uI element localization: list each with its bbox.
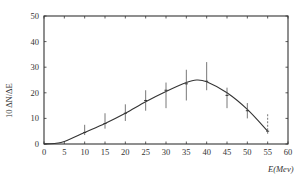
data-points <box>83 62 269 135</box>
x-tick-label: 25 <box>141 147 150 157</box>
y-tick-label: 50 <box>31 11 40 21</box>
x-tick-label: 40 <box>202 147 211 157</box>
x-tick-label: 20 <box>121 147 130 157</box>
plot-border <box>44 16 288 144</box>
chart: 051015202530354045505560 01020304050 E(M… <box>0 0 308 176</box>
x-tick-label: 60 <box>284 147 293 157</box>
y-axis-title: 10 ΔN/ΔE <box>4 83 14 118</box>
fitted-curve <box>44 80 268 144</box>
y-tick-label: 20 <box>31 88 40 98</box>
x-tick-label: 10 <box>80 147 89 157</box>
y-tick-label: 30 <box>31 62 40 72</box>
data-point <box>226 88 229 108</box>
x-tick-label: 0 <box>42 147 46 157</box>
data-point <box>104 113 107 128</box>
data-point <box>144 90 147 110</box>
x-tick-label: 5 <box>62 147 66 157</box>
y-tick-label: 40 <box>31 37 40 47</box>
x-tick-label: 35 <box>182 147 191 157</box>
y-tick-label: 10 <box>31 113 40 123</box>
y-tick-labels: 01020304050 <box>31 11 40 149</box>
x-tick-labels: 051015202530354045505560 <box>42 147 292 157</box>
x-tick-label: 30 <box>162 147 171 157</box>
x-tick-label: 55 <box>263 147 272 157</box>
y-tick-label: 0 <box>35 139 39 149</box>
x-axis-title: E(Mev) <box>267 164 294 174</box>
x-tick-label: 45 <box>223 147 232 157</box>
plot-frame <box>44 16 288 144</box>
axis-ticks <box>44 16 288 144</box>
data-point <box>205 62 208 90</box>
data-point <box>246 103 249 118</box>
fit-line <box>44 80 268 144</box>
x-tick-label: 15 <box>101 147 110 157</box>
x-tick-label: 50 <box>243 147 252 157</box>
data-point <box>165 83 168 109</box>
data-point <box>185 70 188 101</box>
